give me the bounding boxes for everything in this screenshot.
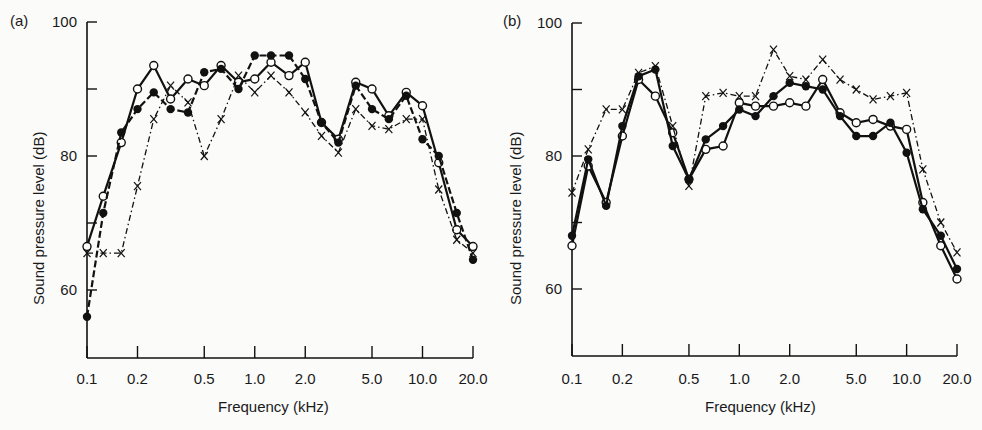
y-tick-label: 80 [522, 147, 562, 164]
x-tick-label: 10.0 [401, 370, 445, 387]
series-crosses [569, 46, 961, 257]
series-filled-circles [568, 65, 961, 273]
y-tick-label: 100 [37, 13, 77, 30]
chart-panel-a: (a) Sound pressure level (dB) Frequency … [0, 0, 491, 430]
y-tick-label: 60 [522, 280, 562, 297]
axes [87, 22, 473, 358]
y-tick-label: 100 [522, 14, 562, 31]
x-tick-label: 20.0 [935, 370, 979, 387]
x-tick-label: 10.0 [885, 370, 929, 387]
x-tick-label: 20.0 [451, 370, 495, 387]
plot-area [491, 0, 982, 430]
x-tick-label: 2.0 [768, 370, 812, 387]
plot-area [0, 0, 491, 430]
x-tick-label: 0.2 [600, 370, 644, 387]
x-tick-label: 2.0 [283, 370, 327, 387]
y-tick-label: 80 [37, 147, 77, 164]
x-tick-label: 0.1 [65, 370, 109, 387]
series-open-circles [83, 58, 477, 250]
x-tick-label: 5.0 [350, 370, 394, 387]
x-tick-label: 0.1 [550, 370, 594, 387]
series-crosses [84, 72, 477, 258]
x-tick-label: 0.5 [667, 370, 711, 387]
y-tick-label: 60 [37, 281, 77, 298]
x-tick-label: 1.0 [717, 370, 761, 387]
x-tick-label: 0.2 [115, 370, 159, 387]
x-tick-label: 0.5 [182, 370, 226, 387]
x-tick-label: 1.0 [233, 370, 277, 387]
x-tick-label: 5.0 [834, 370, 878, 387]
series-filled-circles [83, 51, 477, 321]
chart-panel-b: (b) Sound pressure level (dB) Frequency … [491, 0, 982, 430]
